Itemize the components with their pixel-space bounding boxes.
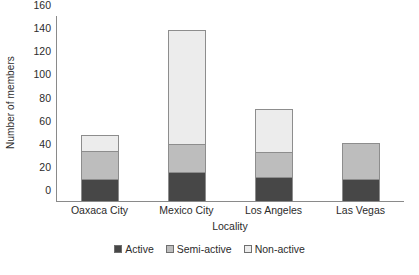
bar-segment-non-active[interactable]	[168, 30, 206, 146]
legend-swatch-icon	[244, 245, 252, 253]
bar-slot	[231, 16, 318, 201]
bar-slot	[57, 16, 144, 201]
bar-segment-active[interactable]	[342, 179, 380, 201]
stacked-bar[interactable]	[81, 135, 119, 201]
plot-area: 020406080100120140160	[56, 16, 404, 202]
y-tick-label: 80	[39, 92, 51, 104]
bar-group	[57, 16, 404, 201]
stacked-bar[interactable]	[168, 30, 206, 201]
legend-swatch-icon	[166, 245, 174, 253]
x-tick-label: Las Vegas	[317, 204, 404, 216]
legend-item-active[interactable]: Active	[114, 243, 154, 255]
x-axis-title-text: Locality	[212, 220, 248, 232]
bar-segment-active[interactable]	[81, 179, 119, 201]
stacked-bar-chart: Number of members 020406080100120140160 …	[0, 0, 419, 275]
y-tick-label: 0	[45, 184, 51, 196]
bar-segment-non-active[interactable]	[255, 109, 293, 153]
stacked-bar[interactable]	[342, 143, 380, 201]
y-tick-label: 40	[39, 138, 51, 150]
bar-slot	[144, 16, 231, 201]
x-axis-line	[56, 201, 404, 202]
x-tick-label: Los Angeles	[230, 204, 317, 216]
x-tick-label: Oaxaca City	[56, 204, 143, 216]
bar-slot	[317, 16, 404, 201]
legend-item-semi-active[interactable]: Semi-active	[166, 243, 232, 255]
bar-segment-semi-active[interactable]	[168, 144, 206, 173]
bar-segment-active[interactable]	[255, 177, 293, 201]
bar-segment-semi-active[interactable]	[342, 143, 380, 180]
x-tick-label: Mexico City	[143, 204, 230, 216]
y-tick-label: 100	[33, 68, 51, 80]
bar-segment-semi-active[interactable]	[81, 151, 119, 180]
y-tick-label: 140	[33, 22, 51, 34]
y-tick-label: 160	[33, 0, 51, 11]
bar-segment-semi-active[interactable]	[255, 152, 293, 177]
bar-segment-non-active[interactable]	[81, 135, 119, 152]
x-axis-title: Locality	[56, 220, 404, 232]
legend-label: Non-active	[255, 243, 305, 255]
y-tick-label: 120	[33, 45, 51, 57]
chart-legend: ActiveSemi-activeNon-active	[0, 243, 419, 255]
x-axis-tick-labels: Oaxaca CityMexico CityLos AngelesLas Veg…	[56, 204, 404, 216]
legend-label: Semi-active	[177, 243, 232, 255]
y-axis-title: Number of members	[2, 0, 18, 205]
y-tick-label: 20	[39, 161, 51, 173]
bar-segment-active[interactable]	[168, 172, 206, 201]
y-axis-title-text: Number of members	[5, 56, 16, 149]
legend-item-non-active[interactable]: Non-active	[244, 243, 305, 255]
y-tick-label: 60	[39, 115, 51, 127]
stacked-bar[interactable]	[255, 109, 293, 201]
legend-label: Active	[125, 243, 154, 255]
legend-swatch-icon	[114, 245, 122, 253]
